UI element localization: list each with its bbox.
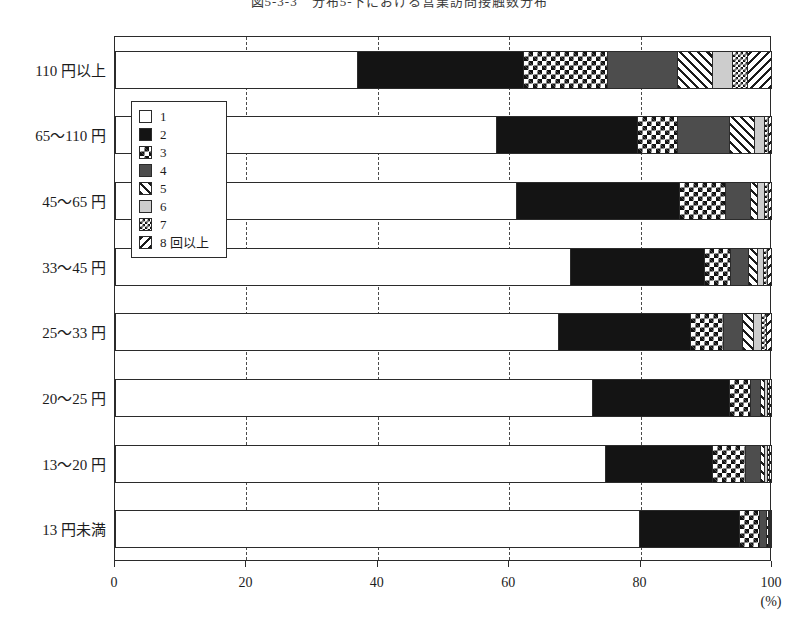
- bar-segment-8: [770, 511, 771, 547]
- legend-label: 5: [160, 182, 167, 195]
- bar-segment-3: [739, 511, 759, 547]
- bar-segment-4: [750, 380, 760, 416]
- legend-item: 4: [139, 161, 220, 179]
- bar-segment-4: [759, 511, 766, 547]
- bar-segment-5: [677, 52, 712, 88]
- stacked-bar: [115, 313, 772, 351]
- chart-legend: 12345678 回以上: [131, 101, 227, 258]
- x-tick: [377, 561, 378, 567]
- x-tick-label: 100: [761, 575, 782, 591]
- bar-segment-4: [677, 117, 729, 153]
- bar-segment-8: [769, 380, 771, 416]
- stacked-bar: [115, 510, 772, 548]
- legend-item: 8 回以上: [139, 233, 220, 251]
- bar-segment-3: [679, 183, 725, 219]
- bar-segment-5: [742, 314, 754, 350]
- bar-segment-3: [729, 380, 750, 416]
- bar-segment-8: [769, 446, 771, 482]
- legend-swatch-black: [139, 128, 152, 141]
- legend-label: 1: [160, 110, 167, 123]
- x-tick-label: 40: [370, 575, 384, 591]
- legend-label: 4: [160, 164, 167, 177]
- chart-row: [115, 365, 770, 431]
- legend-swatch-light-gray: [139, 200, 152, 213]
- y-axis-label: 65〜110 円: [35, 124, 106, 145]
- legend-label: 6: [160, 200, 167, 213]
- bar-segment-3: [712, 446, 745, 482]
- legend-item: 3: [139, 143, 220, 161]
- y-axis-label: 110 円以上: [35, 59, 106, 80]
- chart-figure: 図5-3-3 分布5-下における営業訪問接触数分布 110 円以上65〜110 …: [0, 0, 799, 628]
- bar-segment-1: [116, 446, 605, 482]
- bar-segment-6: [753, 314, 761, 350]
- bar-segment-1: [116, 52, 357, 88]
- x-axis-unit-label: (%): [761, 594, 782, 610]
- bar-segment-2: [592, 380, 730, 416]
- x-tick-label: 80: [633, 575, 647, 591]
- legend-item: 5: [139, 179, 220, 197]
- bar-segment-2: [570, 249, 704, 285]
- chart-row: [115, 300, 770, 366]
- bar-segment-8: [747, 52, 771, 88]
- x-tick-label: 0: [111, 575, 118, 591]
- y-axis-label: 25〜33 円: [42, 321, 106, 342]
- y-axis-label: 13 円未満: [42, 518, 106, 539]
- legend-label: 8 回以上: [160, 236, 209, 249]
- bar-segment-8: [768, 183, 771, 219]
- bar-segment-8: [766, 314, 771, 350]
- y-axis-label: 45〜65 円: [42, 190, 106, 211]
- chart-row: [115, 496, 770, 562]
- legend-item: 2: [139, 125, 220, 143]
- legend-swatch-white: [139, 110, 152, 123]
- bar-segment-5: [729, 117, 754, 153]
- y-axis-label: 20〜25 円: [42, 387, 106, 408]
- bar-segment-3: [704, 249, 731, 285]
- legend-label: 7: [160, 218, 167, 231]
- bar-segment-8: [768, 117, 771, 153]
- bar-segment-2: [357, 52, 523, 88]
- bar-segment-5: [750, 183, 757, 219]
- legend-label: 2: [160, 128, 167, 141]
- bar-segment-2: [516, 183, 680, 219]
- legend-swatch-coarse-checker: [139, 146, 152, 159]
- bar-segment-2: [496, 117, 637, 153]
- bar-segment-1: [116, 380, 592, 416]
- x-tick: [508, 561, 509, 567]
- legend-item: 1: [139, 107, 220, 125]
- bar-segment-4: [723, 314, 742, 350]
- bar-segment-6: [757, 183, 764, 219]
- bar-segment-4: [607, 52, 677, 88]
- bar-segment-6: [754, 117, 764, 153]
- bar-segment-4: [730, 249, 748, 285]
- bar-segment-2: [639, 511, 738, 547]
- legend-item: 7: [139, 215, 220, 233]
- bar-segment-4: [725, 183, 750, 219]
- bar-segment-3: [637, 117, 678, 153]
- y-axis-labels: 110 円以上65〜110 円45〜65 円33〜45 円25〜33 円20〜2…: [0, 36, 114, 561]
- bar-segment-7: [732, 52, 748, 88]
- x-tick: [640, 561, 641, 567]
- bar-segment-2: [558, 314, 690, 350]
- chart-title: 図5-3-3 分布5-下における営業訪問接触数分布: [0, 0, 799, 9]
- bar-segment-8: [767, 249, 771, 285]
- legend-swatch-fine-checker: [139, 218, 152, 231]
- stacked-bar: [115, 51, 772, 89]
- bar-segment-1: [116, 511, 639, 547]
- legend-swatch-diagonal-hatch-right: [139, 182, 152, 195]
- x-tick: [245, 561, 246, 567]
- bar-segment-6: [712, 52, 732, 88]
- stacked-bar: [115, 445, 772, 483]
- x-tick-label: 60: [501, 575, 515, 591]
- x-tick: [771, 561, 772, 567]
- bar-segment-2: [605, 446, 712, 482]
- bar-segment-1: [116, 314, 558, 350]
- bar-segment-3: [523, 52, 607, 88]
- bar-segment-5: [748, 249, 757, 285]
- legend-item: 6: [139, 197, 220, 215]
- legend-swatch-dark-gray: [139, 164, 152, 177]
- y-axis-label: 33〜45 円: [42, 256, 106, 277]
- x-tick-label: 20: [238, 575, 252, 591]
- chart-row: [115, 37, 770, 103]
- x-tick: [114, 561, 115, 567]
- bar-segment-4: [745, 446, 760, 482]
